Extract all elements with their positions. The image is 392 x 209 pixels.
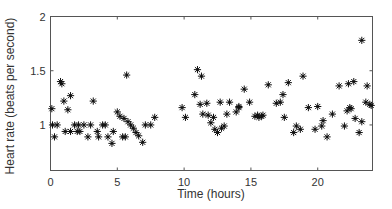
asterisk-marker	[356, 129, 363, 136]
asterisk-marker	[265, 81, 272, 88]
asterisk-marker	[341, 122, 348, 129]
asterisk-marker	[281, 114, 288, 121]
asterisk-marker	[223, 111, 230, 118]
asterisk-marker	[364, 82, 371, 89]
asterisk-marker	[67, 128, 74, 135]
asterisk-marker	[90, 97, 97, 104]
asterisk-marker	[329, 111, 336, 118]
x-tick-label: 15	[245, 176, 257, 188]
asterisk-marker	[318, 122, 325, 129]
asterisk-marker	[210, 114, 217, 121]
y-tick-label: 1	[39, 119, 45, 131]
asterisk-marker	[319, 117, 326, 124]
asterisk-marker	[94, 128, 101, 135]
asterisk-marker	[60, 97, 67, 104]
asterisk-marker	[198, 73, 205, 80]
data-points	[48, 37, 375, 147]
asterisk-marker	[314, 103, 321, 110]
asterisk-marker	[221, 122, 228, 129]
x-tick-label: 10	[178, 176, 190, 188]
asterisk-marker	[182, 114, 189, 121]
asterisk-marker	[76, 128, 83, 135]
asterisk-marker	[203, 100, 210, 107]
asterisk-marker	[226, 99, 233, 106]
asterisk-marker	[64, 106, 71, 113]
asterisk-marker	[259, 112, 266, 119]
asterisk-marker	[108, 140, 115, 147]
asterisk-marker	[67, 92, 74, 99]
asterisk-marker	[352, 115, 359, 122]
asterisk-marker	[323, 133, 330, 140]
asterisk-marker	[350, 78, 357, 85]
asterisk-marker	[199, 111, 206, 118]
asterisk-marker	[358, 37, 365, 44]
asterisk-marker	[194, 66, 201, 73]
asterisk-marker	[235, 103, 242, 110]
y-tick-label: 1.5	[30, 65, 45, 77]
asterisk-marker	[290, 129, 297, 136]
asterisk-marker	[348, 105, 355, 112]
asterisk-marker	[197, 101, 204, 108]
asterisk-marker	[110, 128, 117, 135]
asterisk-marker	[48, 105, 55, 112]
plot-frame	[51, 17, 373, 171]
asterisk-marker	[122, 133, 129, 140]
asterisk-marker	[311, 126, 318, 133]
asterisk-marker	[305, 104, 312, 111]
asterisk-marker	[135, 132, 142, 139]
asterisk-marker	[297, 126, 304, 133]
asterisk-marker	[191, 91, 198, 98]
asterisk-marker	[139, 139, 146, 146]
asterisk-marker	[95, 133, 102, 140]
asterisk-marker	[104, 133, 111, 140]
y-axis-label: Heart rate (beats per second)	[3, 18, 17, 175]
asterisk-marker	[285, 79, 292, 86]
asterisk-marker	[58, 80, 65, 87]
asterisk-marker	[335, 82, 342, 89]
asterisk-marker	[241, 86, 248, 93]
asterisk-marker	[279, 91, 286, 98]
asterisk-marker	[179, 104, 186, 111]
asterisk-marker	[120, 115, 127, 122]
asterisk-marker	[368, 102, 375, 109]
asterisk-marker	[246, 99, 253, 106]
asterisk-marker	[358, 118, 365, 125]
scatter-chart: 05101520 11.52 Time (hours) Heart rate (…	[0, 0, 392, 209]
asterisk-marker	[217, 99, 224, 106]
asterisk-marker	[151, 114, 158, 121]
x-tick-label: 0	[47, 176, 53, 188]
y-tick-label: 2	[39, 11, 45, 23]
asterisk-marker	[84, 133, 91, 140]
asterisk-marker	[147, 121, 154, 128]
asterisk-marker	[54, 121, 61, 128]
asterisk-marker	[80, 121, 87, 128]
x-tick-label: 20	[312, 176, 324, 188]
asterisk-marker	[293, 122, 300, 129]
asterisk-marker	[299, 73, 306, 80]
asterisk-marker	[51, 133, 58, 140]
x-tick-label: 5	[114, 176, 120, 188]
asterisk-marker	[87, 121, 94, 128]
asterisk-marker	[277, 99, 284, 106]
x-axis-label: Time (hours)	[177, 187, 245, 201]
asterisk-marker	[102, 121, 109, 128]
asterisk-marker	[123, 71, 130, 78]
